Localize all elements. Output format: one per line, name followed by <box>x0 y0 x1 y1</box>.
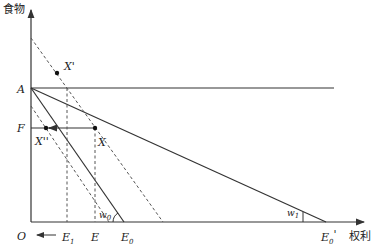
label-F: F <box>16 122 25 135</box>
label-E: E <box>90 231 99 244</box>
label-X-double-prime: X'' <box>34 135 49 148</box>
label-X: X <box>97 136 107 149</box>
dashed-line-outer <box>31 38 163 222</box>
label-A: A <box>16 83 25 96</box>
y-axis-label: 食物 <box>3 2 25 16</box>
label-X-prime: X' <box>63 60 75 73</box>
point-X <box>93 126 97 130</box>
label-E1: E1 <box>61 231 75 246</box>
point-X-prime <box>55 71 59 75</box>
label-E0-prime: E0' <box>320 228 337 246</box>
label-angle-w1: w1 <box>287 208 299 220</box>
label-E0: E0 <box>120 231 134 246</box>
line-A-E0 <box>31 88 124 222</box>
dashed-line-inner <box>31 106 109 222</box>
point-X-double-prime <box>44 126 48 130</box>
origin-label: O <box>17 230 26 243</box>
line-A-E0-prime <box>31 88 326 222</box>
x-axis-label: 权利 <box>349 230 371 243</box>
angle-arc-w0 <box>113 213 118 222</box>
label-angle-w0: w0 <box>99 210 112 222</box>
entitlement-food-diagram: 食物 权利 O A F X' X X'' E1 E E0 E0' w0 w1 <box>0 0 376 249</box>
